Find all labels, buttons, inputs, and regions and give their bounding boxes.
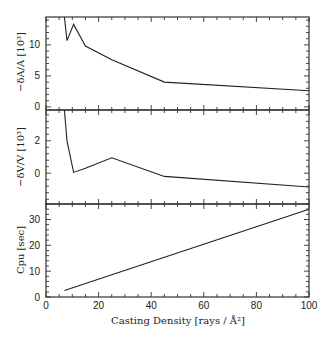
axis-ticks — [46, 17, 309, 297]
x-tick-label: 80 — [251, 300, 263, 311]
x-axis-label: Casting Density [rays / Å²] — [111, 315, 245, 326]
x-tick-label: 40 — [146, 300, 158, 311]
chart: 0510020102030020406080100 −δA/A [10³] −δ… — [0, 0, 330, 340]
series-line — [64, 17, 309, 91]
series-line — [64, 110, 309, 187]
y-tick-label: 20 — [29, 240, 41, 251]
series-line — [64, 209, 309, 290]
y-tick-label: 10 — [29, 266, 41, 277]
tick-labels: 0510020102030020406080100 — [29, 39, 318, 311]
y-tick-label: 5 — [34, 70, 40, 81]
y-tick-label: 0 — [34, 168, 40, 179]
x-tick-label: 100 — [301, 300, 318, 311]
x-tick-label: 20 — [93, 300, 105, 311]
data-lines — [64, 17, 309, 291]
mid-y-label: −δV/V [10³] — [15, 127, 26, 187]
plot-frames — [46, 17, 309, 297]
y-tick-label: 2 — [34, 135, 40, 146]
x-tick-label: 0 — [43, 300, 49, 311]
x-tick-label: 60 — [198, 300, 210, 311]
y-tick-label: 30 — [29, 214, 41, 225]
y-tick-label: 0 — [34, 292, 40, 303]
top-y-label: −δA/A [10³] — [15, 32, 26, 92]
y-tick-label: 10 — [29, 39, 41, 50]
bot-y-label: Cpu [sec] — [15, 226, 26, 274]
y-tick-label: 0 — [34, 101, 40, 112]
